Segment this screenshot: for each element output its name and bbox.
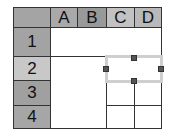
resize-handle-top[interactable]: [131, 55, 137, 61]
resize-handle-left[interactable]: [103, 66, 109, 72]
cell-row1-merged[interactable]: [51, 28, 161, 57]
spreadsheet-grid: A B C D 1 2 3 4: [13, 7, 162, 129]
column-header-c[interactable]: C: [107, 8, 135, 28]
cell-d4[interactable]: [135, 106, 161, 128]
cell-c3[interactable]: [107, 81, 135, 106]
cell-d3[interactable]: [135, 81, 161, 106]
corner-header[interactable]: [14, 8, 51, 28]
cell-c4[interactable]: [107, 106, 135, 128]
row-header-4[interactable]: 4: [14, 106, 51, 128]
row-header-1[interactable]: 1: [14, 28, 51, 57]
row-header-2[interactable]: 2: [14, 57, 51, 81]
resize-handle-right[interactable]: [158, 66, 164, 72]
column-header-d[interactable]: D: [135, 8, 161, 28]
row-header-3[interactable]: 3: [14, 81, 51, 106]
resize-handle-bottom[interactable]: [131, 78, 137, 84]
column-header-b[interactable]: B: [78, 8, 107, 28]
gridline-row3-bottom: [107, 105, 161, 106]
cell-a2-b4-merged[interactable]: [51, 57, 107, 128]
column-header-a[interactable]: A: [51, 8, 78, 28]
